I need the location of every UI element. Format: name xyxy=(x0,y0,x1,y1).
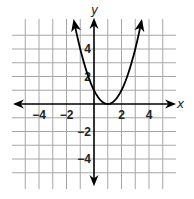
y-tick-label: 4 xyxy=(84,42,91,56)
x-tick-label: −2 xyxy=(60,108,74,122)
y-tick-label: −4 xyxy=(77,152,91,166)
x-axis-label: x xyxy=(176,97,185,111)
x-tick-label: 2 xyxy=(118,108,125,122)
y-tick-label: −2 xyxy=(77,125,91,139)
parabola-graph: −4−22442−2−4 x y xyxy=(0,0,194,199)
x-tick-label: −4 xyxy=(32,108,46,122)
x-tick-label: 4 xyxy=(146,108,153,122)
y-axis-label: y xyxy=(90,3,99,17)
